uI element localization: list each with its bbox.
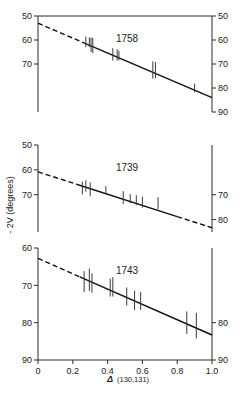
- regression-line: [85, 43, 212, 97]
- right-tick-label: 70: [218, 190, 228, 200]
- right-tick-label: 60: [218, 35, 228, 45]
- x-tick-label: 1.0: [206, 366, 219, 376]
- left-tick-label: 50: [22, 11, 32, 21]
- regression-line: [80, 277, 212, 335]
- y-axis-title: - 2V (degrees): [5, 176, 15, 234]
- regression-line-dashed: [38, 258, 80, 276]
- regression-line-dashed: [38, 172, 78, 185]
- optic-axial-angle-figure: - 2V (degrees) Δ (130,131) 5060705060708…: [0, 0, 247, 395]
- panel-title-1758: 1758: [116, 33, 139, 44]
- right-tick-label: 80: [218, 318, 228, 328]
- panel-title-1739: 1739: [116, 162, 139, 173]
- y-axis-title-text: - 2V (degrees): [5, 176, 15, 234]
- right-tick-label: 90: [218, 107, 228, 117]
- left-tick-label: 50: [22, 140, 32, 150]
- left-tick-label: 60: [22, 243, 32, 253]
- right-tick-label: 80: [218, 83, 228, 93]
- x-tick-label: 0.4: [101, 366, 114, 376]
- left-tick-label: 60: [22, 35, 32, 45]
- regression-line-dashed: [38, 23, 85, 43]
- x-tick-label: 0.6: [136, 366, 149, 376]
- left-tick-label: 70: [22, 190, 32, 200]
- panel-group: 5060705060708090175850607070801739607080…: [22, 11, 228, 365]
- x-axis-title-subscript: (130,131): [117, 375, 150, 384]
- x-tick-label: 0.8: [171, 366, 184, 376]
- regression-line-dashed-tail: [177, 217, 212, 228]
- regression-line: [78, 185, 177, 217]
- x-tick-label: 0.2: [67, 366, 80, 376]
- left-tick-label: 80: [22, 318, 32, 328]
- panel-1743: 6070809080901743: [22, 243, 228, 365]
- panel-1758: 50607050607080901758: [22, 11, 228, 117]
- right-tick-label: 70: [218, 59, 228, 69]
- left-tick-label: 60: [22, 165, 32, 175]
- right-tick-label: 50: [218, 11, 228, 21]
- right-tick-label: 90: [218, 355, 228, 365]
- panel-title-1743: 1743: [116, 265, 139, 276]
- left-tick-label: 90: [22, 355, 32, 365]
- x-axis: 00.20.40.60.81.0: [35, 360, 218, 376]
- left-tick-label: 70: [22, 281, 32, 291]
- right-tick-label: 80: [218, 215, 228, 225]
- x-tick-label: 0: [35, 366, 40, 376]
- left-tick-label: 70: [22, 59, 32, 69]
- panel-1739: 50607070801739: [22, 140, 228, 232]
